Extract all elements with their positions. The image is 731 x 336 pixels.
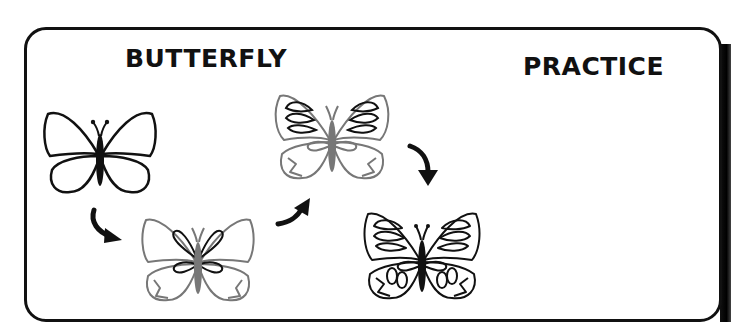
arrow-down-right-icon: [88, 208, 126, 244]
arrow-down-icon: [406, 140, 442, 188]
butterfly-upper-detail-icon: [272, 86, 392, 186]
arrow-up-right-icon: [274, 194, 314, 228]
title-practice: PRACTICE: [523, 52, 664, 81]
title-butterfly: BUTTERFLY: [125, 44, 287, 73]
butterfly-complete-icon: [362, 206, 482, 306]
butterfly-inner-loops-icon: [138, 208, 258, 308]
butterfly-outline-icon: [40, 100, 160, 200]
